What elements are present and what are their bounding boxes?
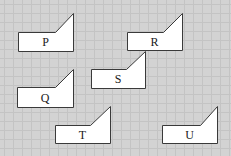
shape-label: S xyxy=(115,72,122,86)
shapes-group: PRQSTU xyxy=(18,14,218,144)
shape-label: T xyxy=(79,128,87,142)
shape-label: Q xyxy=(41,91,50,105)
shape-label: P xyxy=(42,35,49,49)
shapes-diagram: PRQSTU xyxy=(0,0,231,156)
shape-label: R xyxy=(150,35,158,49)
diagram-canvas: PRQSTU xyxy=(0,0,231,156)
shape-s: S xyxy=(92,52,146,89)
shape-label: U xyxy=(185,128,194,142)
shape-q: Q xyxy=(18,70,74,108)
shape-r: R xyxy=(128,14,183,51)
shape-p: P xyxy=(19,14,74,52)
